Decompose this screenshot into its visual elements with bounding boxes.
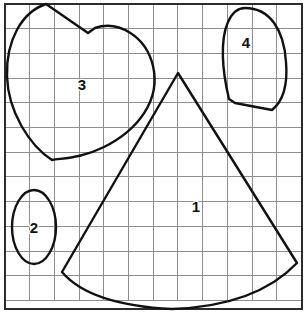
shape-label-1: 1 <box>192 198 200 215</box>
canvas-background <box>0 0 305 317</box>
grid-shapes-diagram: 1234 <box>0 0 305 317</box>
figure-canvas: 1234 <box>0 0 305 317</box>
shape-label-2: 2 <box>30 219 38 236</box>
shape-label-4: 4 <box>242 34 251 51</box>
shape-label-3: 3 <box>78 76 86 93</box>
